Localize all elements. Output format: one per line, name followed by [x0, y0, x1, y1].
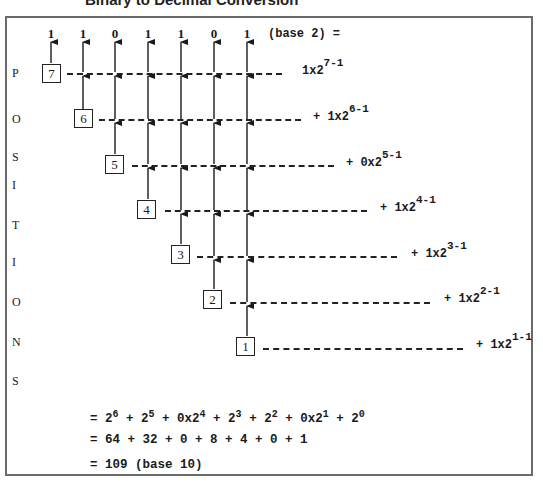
binary-digit: 0	[209, 26, 219, 42]
position-box-7: 7	[42, 64, 61, 83]
dashed-line	[197, 256, 397, 258]
position-box-4: 4	[137, 200, 156, 219]
position-box-2: 2	[203, 290, 222, 309]
binary-digit: 1	[143, 26, 153, 42]
vertical-letter: P	[12, 66, 19, 81]
term-7: 1x27-1	[302, 60, 343, 78]
base-2-label: (base 2) =	[268, 27, 340, 41]
position-box-1: 1	[236, 337, 255, 356]
term-6: + 1x26-1	[313, 106, 369, 124]
dashed-line	[132, 165, 334, 167]
term-4: + 1x24-1	[380, 197, 436, 215]
dashed-line	[67, 73, 282, 75]
dashed-line	[263, 348, 463, 350]
binary-digit: 1	[46, 26, 56, 42]
term-1: + 1x21-1	[476, 334, 532, 352]
vertical-letter: I	[12, 255, 16, 270]
vertical-letter: O	[12, 295, 21, 310]
vertical-letter: S	[12, 374, 19, 389]
binary-digit: 1	[78, 26, 88, 42]
term-3: + 1x23-1	[411, 243, 467, 261]
dashed-line	[165, 210, 367, 212]
binary-digit: 1	[176, 26, 186, 42]
term-5: + 0x25-1	[346, 152, 402, 170]
position-box-6: 6	[74, 109, 93, 128]
vertical-letter: T	[12, 218, 19, 233]
equation-powers: = 26 + 25 + 0x24 + 23 + 22 + 0x21 + 20	[90, 409, 365, 426]
binary-digit: 1	[242, 26, 252, 42]
dashed-line	[230, 302, 430, 304]
binary-digit: 0	[110, 26, 120, 42]
vertical-letter: S	[12, 150, 19, 165]
position-box-5: 5	[105, 155, 124, 174]
dashed-line	[99, 119, 301, 121]
vertical-letter: O	[12, 112, 21, 127]
position-box-3: 3	[171, 245, 190, 264]
equation-result: = 109 (base 10)	[90, 458, 203, 472]
vertical-letter: I	[12, 178, 16, 193]
vertical-letter: N	[12, 335, 21, 350]
equation-values: = 64 + 32 + 0 + 8 + 4 + 0 + 1	[90, 433, 308, 447]
term-2: + 1x22-1	[444, 288, 500, 306]
